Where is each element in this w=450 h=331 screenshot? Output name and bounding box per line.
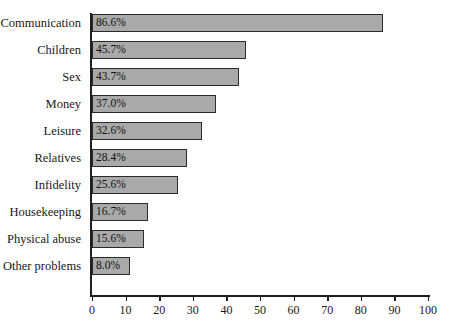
bar-value-label: 43.7% bbox=[93, 71, 126, 83]
category-label: Leisure bbox=[0, 122, 86, 140]
plot-area: 86.6% 45.7% 43.7% 37.0% 32.6% bbox=[92, 14, 428, 295]
bar-value-label: 45.7% bbox=[93, 44, 126, 56]
x-axis-tick-label: 90 bbox=[388, 304, 400, 316]
x-axis-tick bbox=[226, 295, 227, 301]
x-axis-tick bbox=[126, 295, 127, 301]
bar: 43.7% bbox=[92, 68, 239, 86]
x-axis-tick bbox=[327, 295, 328, 301]
x-axis-tick bbox=[159, 295, 160, 301]
bar: 16.7% bbox=[92, 203, 148, 221]
x-axis-tick-label: 0 bbox=[89, 304, 95, 316]
bar: 28.4% bbox=[92, 149, 187, 167]
x-axis-tick bbox=[361, 295, 362, 301]
category-label: Children bbox=[0, 41, 86, 59]
x-axis-tick-label: 30 bbox=[187, 304, 199, 316]
x-axis-tick-label: 20 bbox=[153, 304, 165, 316]
bar-value-label: 32.6% bbox=[93, 125, 126, 137]
x-axis-tick-label: 100 bbox=[419, 304, 437, 316]
x-axis-tick bbox=[92, 295, 93, 301]
bar: 15.6% bbox=[92, 230, 144, 248]
x-axis-tick bbox=[394, 295, 395, 301]
bar-value-label: 15.6% bbox=[93, 233, 126, 245]
x-axis-tick bbox=[294, 295, 295, 301]
x-axis-tick-label: 60 bbox=[288, 304, 300, 316]
bar: 45.7% bbox=[92, 41, 246, 59]
bar: 25.6% bbox=[92, 176, 178, 194]
category-label: Sex bbox=[0, 68, 86, 86]
x-axis-tick bbox=[260, 295, 261, 301]
bar-row: 8.0% bbox=[92, 257, 428, 275]
bar-value-label: 86.6% bbox=[93, 17, 126, 29]
bar-series: 86.6% 45.7% 43.7% 37.0% 32.6% bbox=[92, 14, 428, 284]
bar: 37.0% bbox=[92, 95, 216, 113]
x-axis-tick bbox=[193, 295, 194, 301]
bar: 32.6% bbox=[92, 122, 202, 140]
bar-value-label: 37.0% bbox=[93, 98, 126, 110]
bar-row: 45.7% bbox=[92, 41, 428, 59]
bar-row: 16.7% bbox=[92, 203, 428, 221]
category-label: Physical abuse bbox=[0, 230, 86, 248]
x-axis-tick bbox=[428, 295, 429, 301]
category-label: Relatives bbox=[0, 149, 86, 167]
bar-row: 25.6% bbox=[92, 176, 428, 194]
bar: 8.0% bbox=[92, 257, 130, 275]
x-axis-tick-label: 70 bbox=[321, 304, 333, 316]
x-axis-tick-label: 10 bbox=[120, 304, 132, 316]
category-label: Infidelity bbox=[0, 176, 86, 194]
category-label: Money bbox=[0, 95, 86, 113]
bar-value-label: 16.7% bbox=[93, 206, 126, 218]
category-label: Communication bbox=[0, 14, 86, 32]
bar-row: 43.7% bbox=[92, 68, 428, 86]
bar-row: 28.4% bbox=[92, 149, 428, 167]
category-label: Other problems bbox=[0, 257, 86, 275]
bar-value-label: 8.0% bbox=[93, 260, 120, 272]
bar-value-label: 25.6% bbox=[93, 179, 126, 191]
bar-row: 86.6% bbox=[92, 14, 428, 32]
category-label: Housekeeping bbox=[0, 203, 86, 221]
bar-row: 32.6% bbox=[92, 122, 428, 140]
x-axis-tick-label: 40 bbox=[220, 304, 232, 316]
x-axis-tick-label: 80 bbox=[355, 304, 367, 316]
bar: 86.6% bbox=[92, 14, 383, 32]
bar-chart: Communication Children Sex Money Leisure… bbox=[0, 0, 450, 331]
bar-row: 37.0% bbox=[92, 95, 428, 113]
category-axis-labels: Communication Children Sex Money Leisure… bbox=[0, 14, 86, 284]
bar-row: 15.6% bbox=[92, 230, 428, 248]
x-axis-tick-label: 50 bbox=[254, 304, 266, 316]
bar-value-label: 28.4% bbox=[93, 152, 126, 164]
